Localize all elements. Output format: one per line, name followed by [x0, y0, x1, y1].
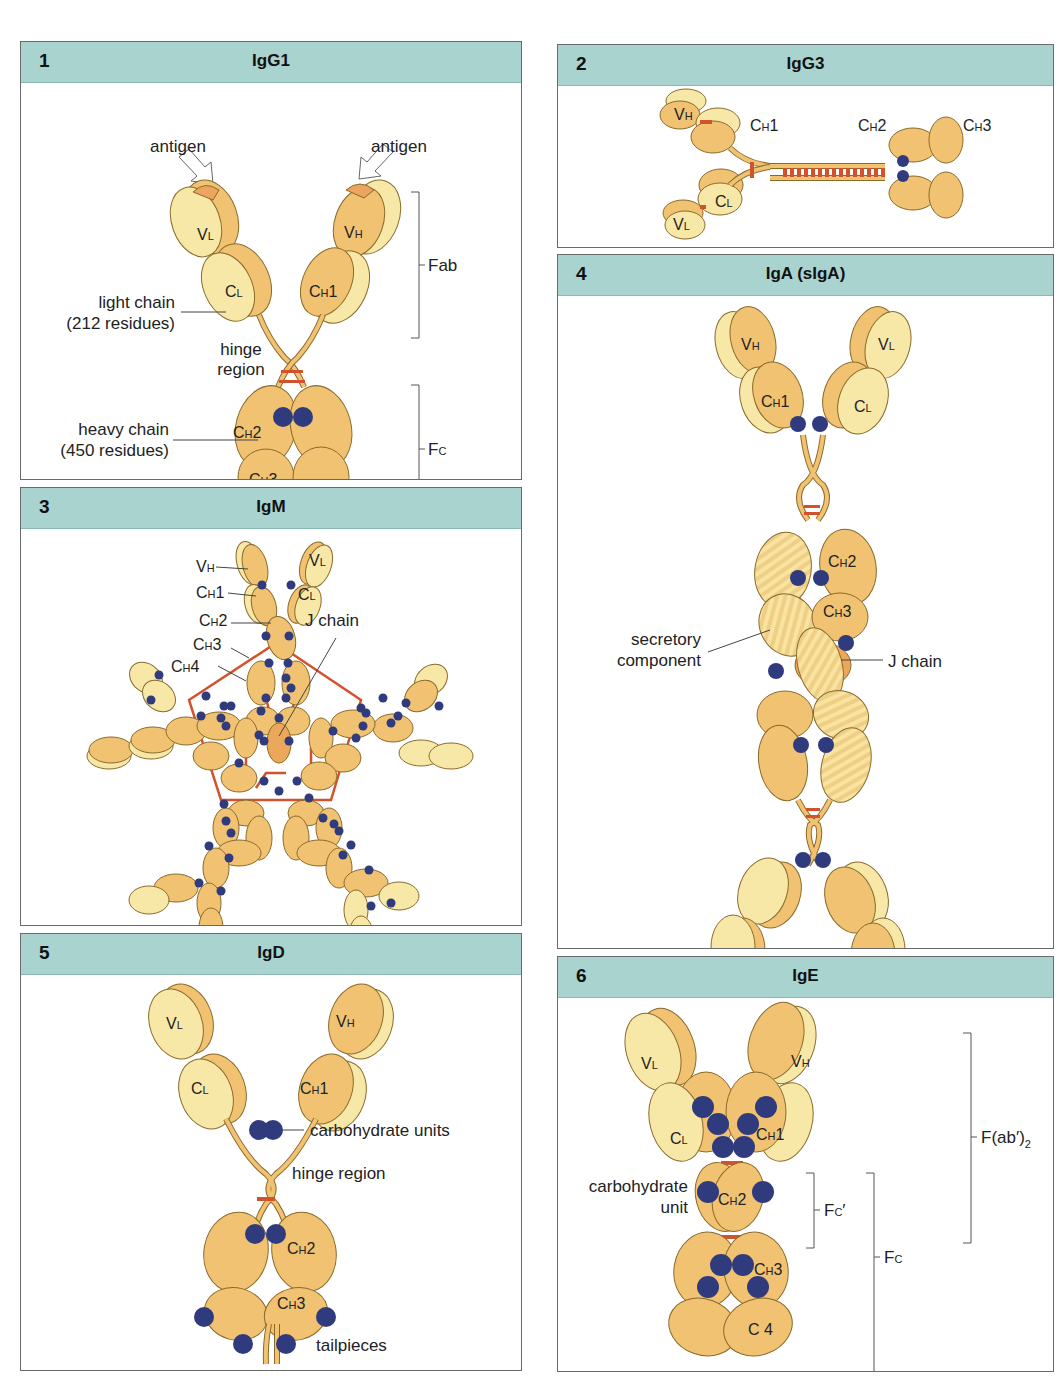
- igg3-diagram: VH CH1 CH2 CH3 CL VL: [558, 85, 1053, 247]
- iga-diagram: VH VL CH1 CL CH2 CH3 secretory component…: [558, 295, 1053, 948]
- igm-diagram: VH VL CH1 CL CH2 CH3 CH4 J chain: [21, 528, 521, 925]
- label-fc: FC: [884, 1248, 902, 1267]
- carbohydrate-icon: [813, 570, 829, 586]
- panel-header: 3 IgM: [21, 488, 521, 529]
- panel-title: IgA (sIgA): [558, 264, 1053, 284]
- panel-header: 5 IgD: [21, 934, 521, 975]
- carbohydrate-icon: [266, 1224, 286, 1244]
- panel-igd: 5 IgD: [20, 933, 522, 1371]
- panel-header: 1 IgG1: [21, 42, 521, 83]
- carbohydrate-icon: [818, 737, 834, 753]
- carbohydrate-icons: [147, 581, 444, 911]
- igd-diagram: VL VH CL CH1 CH2 CH3 carbohydrate units …: [21, 974, 521, 1370]
- label-ch1: CH1: [196, 584, 225, 601]
- carbohydrate-icon: [263, 1120, 283, 1140]
- label-ch2: CH2: [858, 117, 887, 134]
- label-j-chain: J chain: [305, 611, 359, 630]
- label-hinge-region: hinge region: [292, 1164, 386, 1183]
- label-component: component: [617, 651, 701, 670]
- label-vh: VH: [196, 558, 215, 575]
- label-antigen-left: antigen: [150, 137, 206, 156]
- label-fc-prime: FC′: [824, 1201, 846, 1220]
- label-fc: FC: [428, 440, 446, 459]
- label-hinge: hinge: [220, 340, 262, 359]
- carbohydrate-icon: [790, 416, 806, 432]
- carbohydrate-icon: [233, 1334, 253, 1354]
- label-fab2: F(ab′)2: [981, 1128, 1031, 1150]
- carbohydrate-icon: [790, 570, 806, 586]
- panel-title: IgM: [21, 497, 521, 517]
- panel-igg1: 1 IgG1: [20, 41, 522, 480]
- label-ch3: CH3: [193, 636, 222, 653]
- carbohydrate-icon: [273, 407, 293, 427]
- label-carbohydrate-units: carbohydrate units: [310, 1121, 450, 1140]
- label-light-chain-residues: (212 residues): [66, 314, 175, 333]
- label-fab: Fab: [428, 256, 457, 275]
- label-ch1: CH1: [750, 117, 779, 134]
- label-carbohydrate: carbohydrate: [589, 1177, 688, 1196]
- ige-diagram: VL VH CL CH1 CH2 CH3 C 4 carbohydrate un…: [558, 997, 1053, 1371]
- label-antigen-right: antigen: [371, 137, 427, 156]
- label-secretory: secretory: [631, 630, 701, 649]
- panel-header: 2 IgG3: [558, 45, 1053, 86]
- label-j-chain: J chain: [888, 652, 942, 671]
- carbohydrate-icon: [815, 852, 831, 868]
- carbohydrate-icon: [194, 1307, 214, 1327]
- carbohydrate-icon: [316, 1307, 336, 1327]
- carbohydrate-icon: [293, 407, 313, 427]
- panel-igg3: 2 IgG3: [557, 44, 1054, 248]
- carbohydrate-icon: [276, 1334, 296, 1354]
- panel-title: IgG3: [558, 54, 1053, 74]
- carbohydrate-icon: [245, 1224, 265, 1244]
- panel-header: 4 IgA (sIgA): [558, 255, 1053, 296]
- panel-title: IgG1: [21, 51, 521, 71]
- label-ch3: CH3: [963, 117, 992, 134]
- label-ch2: CH2: [199, 612, 228, 629]
- label-c4: C 4: [748, 1321, 773, 1338]
- panel-igm: 3 IgM: [20, 487, 522, 926]
- panel-iga: 4 IgA (sIgA): [557, 254, 1054, 949]
- carbohydrate-icon: [768, 663, 784, 679]
- carbohydrate-icon: [897, 155, 909, 167]
- label-heavy-chain-residues: (450 residues): [60, 441, 169, 460]
- carbohydrate-icon: [793, 737, 809, 753]
- panel-title: IgD: [21, 943, 521, 963]
- label-unit: unit: [661, 1198, 689, 1217]
- label-light-chain: light chain: [98, 293, 175, 312]
- igg1-diagram: antigen antigen VL VH CL CH1 CH2 CH3 lig…: [21, 82, 521, 479]
- label-region: region: [217, 360, 264, 379]
- panel-title: IgE: [558, 966, 1053, 986]
- panel-header: 6 IgE: [558, 957, 1053, 998]
- carbohydrate-icon: [795, 852, 811, 868]
- panel-ige: 6 IgE: [557, 956, 1054, 1372]
- carbohydrate-icon: [897, 170, 909, 182]
- label-tailpieces: tailpieces: [316, 1336, 387, 1355]
- label-heavy-chain: heavy chain: [78, 420, 169, 439]
- disulfide-ladder: [783, 168, 885, 177]
- carbohydrate-icon: [812, 416, 828, 432]
- carbohydrate-icon: [838, 635, 854, 651]
- label-ch4: CH4: [171, 658, 200, 675]
